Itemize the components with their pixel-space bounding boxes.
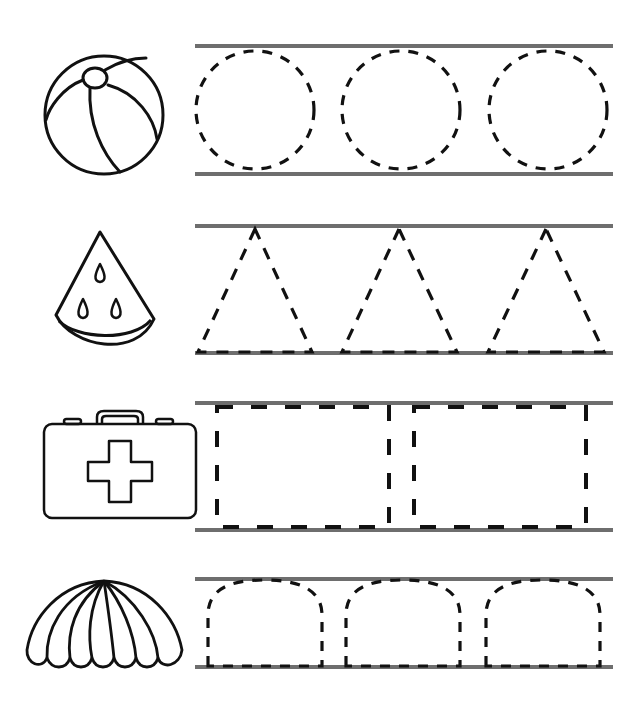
trace-area-triangles	[195, 224, 613, 359]
trace-rectangle-2	[414, 407, 586, 527]
trace-triangle-1	[198, 229, 312, 352]
trace-area-arches	[195, 577, 613, 672]
trace-area-rectangles	[195, 401, 613, 536]
watermelon-slice-icon	[52, 229, 158, 359]
trace-arch-1	[208, 580, 322, 666]
trace-triangle-3	[488, 229, 604, 352]
shell-icon	[24, 578, 188, 670]
trace-arch-3	[486, 580, 600, 666]
trace-circle-1	[196, 51, 314, 169]
trace-triangle-2	[342, 229, 457, 352]
first-aid-kit-icon	[42, 411, 198, 521]
trace-circle-2	[342, 51, 460, 169]
trace-rectangle-1	[217, 407, 389, 527]
tracing-worksheet: Shape tracing worksheet	[0, 0, 643, 713]
trace-area-circles	[195, 44, 613, 179]
trace-arch-2	[346, 580, 460, 666]
beach-ball-icon	[42, 53, 166, 177]
trace-circle-3	[489, 51, 607, 169]
